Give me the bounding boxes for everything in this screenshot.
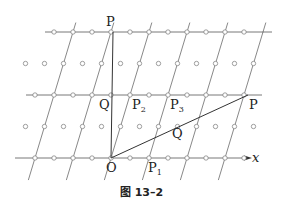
lattice-point [242, 156, 246, 160]
lattice-point [23, 61, 27, 65]
lattice-point [223, 156, 227, 160]
lattice-point [118, 124, 122, 128]
lattice-point [156, 61, 160, 65]
lattice-point [137, 61, 141, 65]
figure-caption: 图 13–2 [0, 183, 283, 199]
lattice-point [128, 30, 132, 34]
label-P2: P2 [132, 98, 146, 114]
lattice-point [61, 124, 65, 128]
lattice-point [71, 156, 75, 160]
lattice-point [185, 93, 189, 97]
lattice-point [99, 61, 103, 65]
lattice-point [23, 124, 27, 128]
lattice-point [52, 93, 56, 97]
lattice-point [118, 61, 122, 65]
lattice-point [166, 156, 170, 160]
lattice-point [80, 61, 84, 65]
label-P1: P1 [148, 161, 162, 177]
lattice-point [223, 93, 227, 97]
label-P-top: P [106, 15, 115, 28]
lattice-point [213, 124, 217, 128]
lattice-point [33, 93, 37, 97]
figure-13-2: P Q P2 P3 P Q O P1 x 图 13–2 [0, 0, 283, 203]
lattice-point [90, 93, 94, 97]
lattice-point [128, 156, 132, 160]
lattice-point [52, 156, 56, 160]
lattice-point [80, 124, 84, 128]
lattice-point [99, 124, 103, 128]
lattice-point [232, 124, 236, 128]
lattice-point [61, 61, 65, 65]
label-P3: P3 [170, 98, 184, 114]
lattice-point [204, 30, 208, 34]
lattice-point [204, 93, 208, 97]
lattice-point [42, 124, 46, 128]
axis-x-label: x [252, 151, 259, 164]
label-O: O [106, 161, 117, 174]
lattice-point [166, 30, 170, 34]
lattice-point [194, 124, 198, 128]
lattice-point [156, 124, 160, 128]
lattice-point [147, 30, 151, 34]
lattice-point [213, 61, 217, 65]
label-P-right: P [249, 98, 258, 111]
lattice-point [251, 124, 255, 128]
lattice-point [251, 61, 255, 65]
lattice-point [33, 156, 37, 160]
lattice-point [42, 61, 46, 65]
lattice-point [185, 156, 189, 160]
lattice-point [52, 30, 56, 34]
lattice-point [204, 156, 208, 160]
lattice-point [71, 93, 75, 97]
lattice-point [232, 61, 236, 65]
lattice-point [175, 61, 179, 65]
lattice-point [194, 61, 198, 65]
lattice-point [90, 30, 94, 34]
lattice-point [90, 156, 94, 160]
lattice-point [137, 124, 141, 128]
lattice-point [71, 30, 75, 34]
lattice-point [147, 93, 151, 97]
lattice-point [223, 30, 227, 34]
lattice-point [242, 30, 246, 34]
lattice-point [185, 30, 189, 34]
label-Q-mid: Q [99, 98, 110, 111]
label-Q-diag: Q [172, 127, 183, 140]
